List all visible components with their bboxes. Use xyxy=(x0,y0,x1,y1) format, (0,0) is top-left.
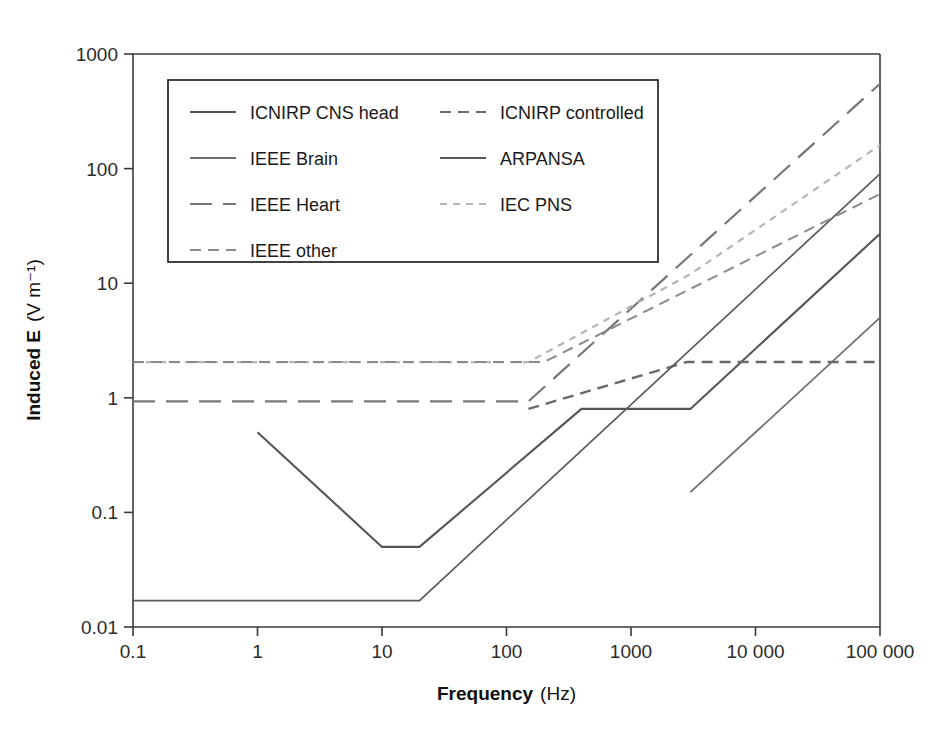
y-axis-title-main: Induced E xyxy=(23,330,44,421)
legend-label: IEEE other xyxy=(250,241,337,261)
legend-label: ARPANSA xyxy=(500,149,585,169)
x-tick-label: 10 xyxy=(371,641,392,662)
x-axis-title: Frequency (Hz) xyxy=(437,683,576,704)
y-tick-label: 1000 xyxy=(76,44,118,65)
x-tick-label: 1000 xyxy=(610,641,652,662)
x-tick-label: 100 xyxy=(491,641,523,662)
x-axis-title-main: Frequency xyxy=(437,683,534,704)
legend-label: IEEE Brain xyxy=(250,149,338,169)
legend-label: ICNIRP controlled xyxy=(500,103,644,123)
y-tick-label: 1 xyxy=(107,388,118,409)
x-tick-label: 0.1 xyxy=(120,641,146,662)
y-tick-label: 100 xyxy=(86,159,118,180)
chart-legend: ICNIRP CNS headICNIRP controlledIEEE Bra… xyxy=(168,80,658,262)
y-tick-label: 0.01 xyxy=(81,617,118,638)
y-tick-label: 10 xyxy=(97,273,118,294)
legend-label: IEC PNS xyxy=(500,195,572,215)
y-axis-title-unit: (V m⁻¹) xyxy=(23,259,44,322)
y-axis-title: Induced E (V m⁻¹) xyxy=(23,259,44,421)
x-tick-label: 100 000 xyxy=(846,641,915,662)
x-tick-label: 10 000 xyxy=(726,641,784,662)
figure-container: 0.1110100100010 000100 000 10001001010.1… xyxy=(0,0,950,736)
line-chart: 0.1110100100010 000100 000 10001001010.1… xyxy=(0,0,950,736)
y-tick-label: 0.1 xyxy=(92,502,118,523)
legend-label: ICNIRP CNS head xyxy=(250,103,399,123)
x-tick-label: 1 xyxy=(252,641,263,662)
x-axis-title-unit: (Hz) xyxy=(540,683,576,704)
legend-label: IEEE Heart xyxy=(250,195,340,215)
